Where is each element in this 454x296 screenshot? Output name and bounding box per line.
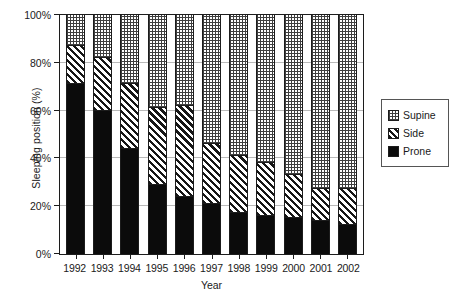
legend-label: Prone [403,145,431,157]
x-axis-tick [293,254,294,259]
plot-area: 0%20%40%60%80%100% [59,14,364,255]
x-axis-tick [239,254,240,259]
bar-segment-prone [203,204,220,254]
y-axis-tick-label: 100% [24,9,51,21]
bar-slot [62,15,89,254]
stacked-bar[interactable] [93,15,112,254]
bar-segment-prone [339,225,356,254]
y-axis-tick-label: 80% [30,57,51,69]
bar-segment-prone [121,149,138,254]
bar-segment-prone [67,84,84,254]
bar-slot [171,15,198,254]
y-axis-tick-label: 0% [36,248,51,260]
x-axis-tick [157,254,158,259]
bar-segment-supine [203,15,220,144]
stacked-bar[interactable] [338,15,357,254]
legend-item-prone[interactable]: Prone [388,142,443,160]
x-axis-tick-label: 2001 [307,262,334,274]
legend-label: Supine [403,109,436,121]
legend-swatch-prone-icon [388,146,399,157]
bar-slot [307,15,334,254]
bar-segment-side [94,58,111,111]
stacked-bar[interactable] [175,15,194,254]
bar-segment-prone [257,216,274,254]
bar-slot [144,15,171,254]
legend-item-side[interactable]: Side [388,124,443,142]
bar-segment-side [339,189,356,225]
bar-segment-side [121,84,138,149]
legend-item-supine[interactable]: Supine [388,106,443,124]
bar-segment-side [176,106,193,197]
x-axis-tick-label: 1999 [253,262,280,274]
bar-segment-supine [230,15,247,156]
bar-segment-prone [285,218,302,254]
bar-segment-supine [94,15,111,58]
bar-segment-prone [230,213,247,254]
stacked-bar[interactable] [256,15,275,254]
x-axis-tick [103,254,104,259]
stacked-bar[interactable] [311,15,330,254]
stacked-bar[interactable] [229,15,248,254]
bar-slot [280,15,307,254]
x-axis-tick-label: 1992 [61,262,88,274]
bar-segment-supine [257,15,274,163]
legend-swatch-side-icon [388,128,399,139]
bar-segment-prone [149,185,166,254]
stacked-bar[interactable] [284,15,303,254]
bar-segment-supine [176,15,193,106]
bar-segment-side [149,108,166,184]
x-axis-title: Year [59,279,364,291]
bar-segment-side [285,175,302,218]
bar-segment-supine [339,15,356,189]
bar-segment-side [312,189,329,220]
x-axis-tick-label: 1998 [225,262,252,274]
chart-legend: SupineSideProne [381,99,449,167]
bar-segment-side [203,144,220,204]
bar-slot [89,15,116,254]
bar-segment-prone [312,221,329,254]
x-axis-tick-label: 2002 [335,262,362,274]
x-axis-tick-labels: 1992199319941995199619971998199920002001… [59,262,364,274]
bar-slot [225,15,252,254]
bar-segment-supine [67,15,84,46]
bar-segment-prone [176,197,193,254]
x-axis-tick [76,254,77,259]
bar-segment-side [257,163,274,216]
x-axis-tick-label: 1997 [198,262,225,274]
x-axis-tick [130,254,131,259]
stacked-bar[interactable] [66,15,85,254]
bar-slot [198,15,225,254]
x-axis-tick [347,254,348,259]
x-axis-tick [266,254,267,259]
x-axis-tick [184,254,185,259]
x-axis-tick-label: 1994 [116,262,143,274]
legend-label: Side [403,127,424,139]
bar-segment-supine [312,15,329,189]
stacked-bar[interactable] [202,15,221,254]
bar-segment-supine [285,15,302,175]
stacked-bar[interactable] [120,15,139,254]
bar-slot [334,15,361,254]
x-axis-tick-label: 2000 [280,262,307,274]
bar-segment-supine [121,15,138,84]
y-axis-tick-label: 40% [30,152,51,164]
x-axis-tick [212,254,213,259]
y-axis-tick-label: 20% [30,200,51,212]
bar-slot [116,15,143,254]
legend-swatch-supine-icon [388,110,399,121]
bar-segment-prone [94,111,111,254]
y-axis-tick-label: 60% [30,105,51,117]
x-axis-tick [320,254,321,259]
x-axis-tick-label: 1996 [170,262,197,274]
bars-group [60,15,363,254]
x-axis-tick-label: 1995 [143,262,170,274]
bar-segment-side [67,46,84,84]
bar-slot [252,15,279,254]
x-axis-tick-label: 1993 [88,262,115,274]
stacked-bar[interactable] [148,15,167,254]
bar-segment-side [230,156,247,213]
stacked-bar-chart-figure: Sleeping position (%) 0%20%40%60%80%100%… [0,0,454,296]
bar-segment-supine [149,15,166,108]
